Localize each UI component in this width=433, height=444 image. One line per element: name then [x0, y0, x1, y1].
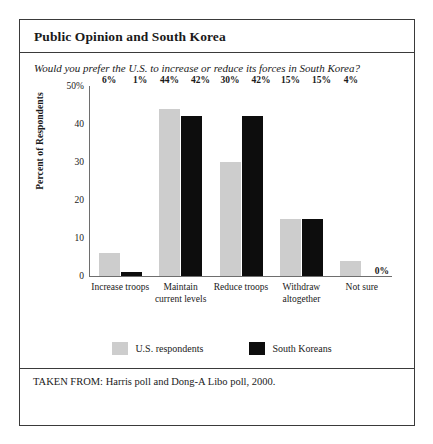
legend-label-us: U.S. respondents	[135, 343, 203, 354]
bar-slot: 1%	[121, 86, 142, 276]
x-axis-label: Maintain current levels	[150, 281, 210, 305]
bar	[280, 219, 301, 276]
legend-item-us-respondents: U.S. respondents	[112, 342, 203, 355]
x-axis-label: Increase troops	[90, 281, 150, 305]
title-divider	[20, 52, 414, 53]
bar-value-label: 30%	[221, 75, 240, 85]
bar-group: 15%15%	[271, 86, 331, 276]
y-tick-10: 10	[48, 233, 84, 243]
source-note: TAKEN FROM: Harris poll and Dong-A Libo …	[20, 369, 414, 389]
plot-area: Percent of Respondents 50% 40 30 20 10 0…	[20, 86, 414, 302]
bar-slot: 44%	[159, 86, 180, 276]
bar-value-label: 0%	[375, 266, 389, 276]
legend-swatch-icon-us	[112, 342, 128, 355]
bar-slot: 15%	[302, 86, 323, 276]
x-axis-label: Withdraw altogether	[271, 281, 331, 305]
bar-slot: 30%	[220, 86, 241, 276]
bar-value-label: 44%	[160, 75, 179, 85]
bar-value-label: 1%	[133, 75, 147, 85]
legend-item-south-koreans: South Koreans	[249, 342, 331, 355]
bar	[159, 109, 180, 276]
bar-value-label: 6%	[102, 75, 116, 85]
bar-value-label: 15%	[281, 75, 300, 85]
legend-swatch-icon-kr	[249, 342, 265, 355]
chart-figure: Public Opinion and South Korea Would you…	[19, 19, 415, 426]
bar	[181, 116, 202, 276]
bar-slot: 0%	[362, 86, 383, 276]
bar-value-label: 15%	[312, 75, 331, 85]
bar-slot: 15%	[280, 86, 301, 276]
x-axis-labels: Increase troopsMaintain current levelsRe…	[90, 281, 392, 305]
bar-group: 30%42%	[211, 86, 271, 276]
x-axis-label: Reduce troops	[211, 281, 271, 305]
y-tick-50: 50%	[48, 81, 84, 91]
bar-group: 4%0%	[332, 86, 392, 276]
bar	[220, 162, 241, 276]
bar-group: 6%1%	[90, 86, 150, 276]
legend-label-kr: South Koreans	[272, 343, 331, 354]
bar	[302, 219, 323, 276]
bar	[242, 116, 263, 276]
bar-value-label: 42%	[252, 75, 271, 85]
bar-value-label: 4%	[344, 75, 358, 85]
x-axis-line	[89, 276, 392, 277]
y-axis-ticks: 50% 40 30 20 10 0	[48, 86, 84, 276]
chart-header: Public Opinion and South Korea Would you…	[20, 20, 414, 77]
bar	[99, 253, 120, 276]
bar-slot: 42%	[242, 86, 263, 276]
bar-slot: 42%	[181, 86, 202, 276]
y-tick-30: 30	[48, 157, 84, 167]
y-tick-40: 40	[48, 119, 84, 129]
x-axis-label: Not sure	[332, 281, 392, 305]
bar-groups: 6%1%44%42%30%42%15%15%4%0%	[90, 86, 392, 276]
chart-title: Public Opinion and South Korea	[34, 29, 400, 45]
y-tick-20: 20	[48, 195, 84, 205]
bar-group: 44%42%	[150, 86, 210, 276]
y-tick-0: 0	[48, 271, 84, 281]
bar-slot: 4%	[340, 86, 361, 276]
bar	[340, 261, 361, 276]
bar-value-label: 42%	[191, 75, 210, 85]
bar-slot: 6%	[99, 86, 120, 276]
chart-legend: U.S. respondents South Koreans	[20, 342, 414, 355]
bar	[121, 272, 142, 276]
y-axis-label: Percent of Respondents	[35, 66, 45, 216]
